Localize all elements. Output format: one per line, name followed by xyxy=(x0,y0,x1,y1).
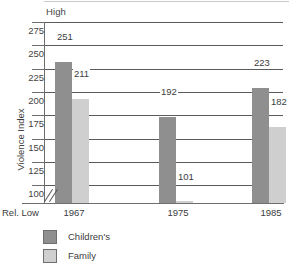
x-axis-label-1967: 1967 xyxy=(57,207,91,218)
gridline-250 xyxy=(44,45,283,46)
bar-1975-childrens xyxy=(159,117,176,203)
y-tick-label-100: 100 xyxy=(20,188,44,199)
value-label-1985-childrens: 223 xyxy=(253,57,271,68)
y-tick-label-200: 200 xyxy=(20,95,44,106)
violence-index-bar-chart: High Violence Index xyxy=(0,0,300,270)
tick-250 xyxy=(32,45,44,46)
value-label-1975-family: 101 xyxy=(177,171,195,182)
y-axis-line xyxy=(44,22,45,204)
x-axis-line xyxy=(22,203,284,204)
value-label-1967-childrens: 251 xyxy=(56,31,74,42)
x-axis-rel-low-label: Rel. Low xyxy=(2,207,39,218)
tick-200 xyxy=(32,92,44,93)
x-axis-label-1975: 1975 xyxy=(161,207,195,218)
y-tick-label-175: 175 xyxy=(20,118,44,129)
tick-125 xyxy=(32,162,44,163)
bar-1967-childrens xyxy=(55,62,72,203)
legend-label-family: Family xyxy=(68,250,96,261)
y-tick-label-150: 150 xyxy=(20,142,44,153)
tick-175 xyxy=(32,115,44,116)
y-tick-label-275: 275 xyxy=(20,25,44,36)
y-axis-high-label: High xyxy=(46,6,66,17)
tick-225 xyxy=(32,69,44,70)
value-label-1975-childrens: 192 xyxy=(160,86,178,97)
tick-100 xyxy=(32,185,44,186)
legend-swatch-childrens xyxy=(43,230,57,244)
bar-1985-childrens xyxy=(252,88,269,203)
bar-1967-family xyxy=(72,99,89,203)
chart-top-rule xyxy=(44,1,289,2)
bar-1985-family xyxy=(269,127,286,203)
tick-275 xyxy=(32,22,44,23)
plot-area xyxy=(44,22,283,203)
y-tick-label-125: 125 xyxy=(20,165,44,176)
gridline-275 xyxy=(44,22,283,23)
y-tick-label-225: 225 xyxy=(20,72,44,83)
legend-swatch-family xyxy=(43,249,57,263)
x-axis-label-1985: 1985 xyxy=(254,207,288,218)
legend-label-childrens: Children's xyxy=(68,231,110,242)
tick-150 xyxy=(32,139,44,140)
value-label-1967-family: 211 xyxy=(73,68,90,79)
y-tick-label-250: 250 xyxy=(20,48,44,59)
value-label-1985-family: 182 xyxy=(270,96,288,107)
